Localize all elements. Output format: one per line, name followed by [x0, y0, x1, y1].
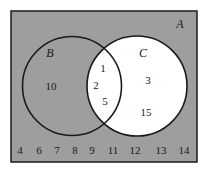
b-only-element: 10 — [46, 80, 58, 92]
universe-label: A — [175, 17, 184, 31]
intersection-element: 2 — [93, 79, 99, 91]
set-b-label: B — [46, 46, 54, 60]
outside-element: 12 — [130, 144, 141, 156]
intersection-element: 5 — [102, 95, 108, 107]
outside-element: 8 — [72, 144, 78, 156]
set-c-label: C — [139, 46, 148, 60]
outside-element: 11 — [108, 144, 119, 156]
c-only-element: 3 — [145, 74, 151, 86]
outside-element: 13 — [156, 144, 168, 156]
venn-diagram: A B C 10 1 2 5 3 15 4 6 7 8 9 11 12 13 1… — [0, 0, 209, 170]
outside-element: 7 — [54, 144, 60, 156]
outside-element: 4 — [17, 144, 23, 156]
outside-element: 9 — [89, 144, 95, 156]
outside-element: 6 — [36, 144, 42, 156]
circle-c — [87, 36, 187, 136]
intersection-element: 1 — [100, 62, 106, 74]
c-only-element: 15 — [141, 106, 153, 118]
outside-element: 14 — [179, 144, 191, 156]
